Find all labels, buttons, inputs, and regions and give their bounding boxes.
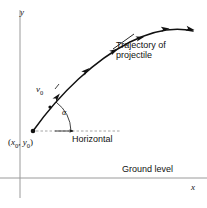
origin-close-paren: ) [30,137,33,147]
ground-level-label: Ground level [122,164,173,174]
velocity-origin-dot [48,105,51,108]
y-axis-label: y [20,7,24,17]
v0-leader-tick [55,84,59,89]
trajectory-label: Trajectory of projectile [116,40,200,61]
projectile-motion-figure: y x v0 α (x0, y0) Horizontal Trajectory … [0,0,207,208]
launch-angle-label: α [62,108,66,117]
initial-velocity-subscript: 0 [40,89,43,96]
velocity-arrowheads-group [52,26,195,102]
diagram-canvas [0,0,207,208]
x-axis-label: x [191,182,195,192]
horizontal-label: Horizontal [72,134,113,144]
origin-coordinates-label: (x0, y0) [8,137,33,149]
launch-point-dot [31,129,36,134]
initial-velocity-label: v0 [36,84,43,96]
